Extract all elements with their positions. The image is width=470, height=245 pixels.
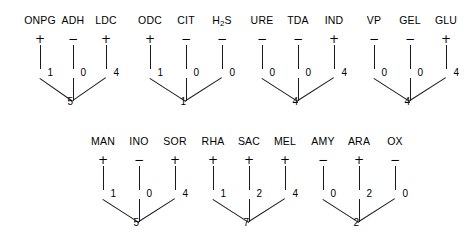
test-stem-line	[186, 45, 187, 69]
negative-sign: −	[245, 34, 279, 44]
negative-sign: −	[357, 34, 391, 44]
test-label: MAN	[86, 135, 120, 147]
test-stem-line	[40, 45, 41, 69]
center-connector-line	[139, 199, 140, 222]
group-sum-value: 4	[268, 96, 298, 107]
test-score-value: 0	[205, 67, 235, 78]
group-sum-value: 2	[329, 217, 359, 228]
connector-line	[72, 77, 106, 101]
test-label: URE	[245, 14, 279, 26]
test-label: GLU	[429, 14, 463, 26]
test-label: RHA	[196, 135, 230, 147]
test-score-value: 1	[196, 188, 226, 199]
test-label: IND	[317, 14, 351, 26]
connector-line	[297, 77, 334, 101]
test-stem-line	[285, 166, 286, 190]
test-score-value: 0	[393, 67, 423, 78]
test-score-value: 0	[378, 188, 408, 199]
test-score-value: 2	[342, 188, 372, 199]
group-sum-value: 7	[219, 217, 249, 228]
test-label: H2S	[205, 14, 239, 28]
diagram-canvas: ONPG+1ADH−0LDC+45ODC+1CIT−0H2S−01URE−0TD…	[0, 0, 470, 245]
negative-sign: −	[393, 34, 427, 44]
test-label: AMY	[306, 135, 340, 147]
test-score-value: 0	[169, 67, 199, 78]
test-stem-line	[334, 45, 335, 69]
test-score-value: 0	[357, 67, 387, 78]
connector-line	[409, 77, 446, 101]
positive-sign: +	[89, 34, 123, 44]
test-score-value: 1	[23, 67, 53, 78]
group-sum-value: 5	[43, 96, 73, 107]
test-score-value: 0	[56, 67, 86, 78]
test-score-value: 1	[86, 188, 116, 199]
negative-sign: −	[378, 155, 412, 165]
positive-sign: +	[133, 34, 167, 44]
test-label: ARA	[342, 135, 376, 147]
positive-sign: +	[86, 155, 120, 165]
test-score-value: 0	[306, 188, 336, 199]
test-score-value: 0	[122, 188, 152, 199]
test-stem-line	[73, 45, 74, 69]
group-sum-value: 1	[156, 96, 186, 107]
positive-sign: +	[196, 155, 230, 165]
center-connector-line	[249, 199, 250, 222]
negative-sign: −	[56, 34, 90, 44]
test-stem-line	[175, 166, 176, 190]
test-score-value: 4	[158, 188, 188, 199]
test-label: GEL	[393, 14, 427, 26]
test-stem-line	[446, 45, 447, 69]
test-stem-line	[395, 166, 396, 190]
negative-sign: −	[306, 155, 340, 165]
positive-sign: +	[158, 155, 192, 165]
test-stem-line	[150, 45, 151, 69]
connector-line	[248, 198, 285, 222]
positive-sign: +	[429, 34, 463, 44]
test-label: SAC	[232, 135, 266, 147]
negative-sign: −	[169, 34, 203, 44]
test-stem-line	[213, 166, 214, 190]
test-stem-line	[106, 45, 107, 69]
test-stem-line	[298, 45, 299, 69]
center-connector-line	[359, 199, 360, 222]
test-label: TDA	[281, 14, 315, 26]
test-stem-line	[359, 166, 360, 190]
connector-line	[358, 198, 395, 222]
test-score-value: 2	[232, 188, 262, 199]
positive-sign: +	[232, 155, 266, 165]
test-stem-line	[374, 45, 375, 69]
test-label: OX	[378, 135, 412, 147]
test-label: ADH	[56, 14, 90, 26]
test-label: INO	[122, 135, 156, 147]
test-score-value: 0	[245, 67, 275, 78]
test-label: SOR	[158, 135, 192, 147]
test-label: MEL	[268, 135, 302, 147]
test-stem-line	[103, 166, 104, 190]
negative-sign: −	[205, 34, 239, 44]
connector-line	[185, 77, 222, 101]
group-sum-value: 4	[380, 96, 410, 107]
test-stem-line	[249, 166, 250, 190]
center-connector-line	[298, 78, 299, 101]
test-label: ODC	[133, 14, 167, 26]
positive-sign: +	[268, 155, 302, 165]
test-stem-line	[222, 45, 223, 69]
test-stem-line	[139, 166, 140, 190]
test-score-value: 1	[133, 67, 163, 78]
center-connector-line	[73, 78, 74, 101]
test-score-value: 4	[89, 67, 119, 78]
test-label: LDC	[89, 14, 123, 26]
positive-sign: +	[342, 155, 376, 165]
test-stem-line	[410, 45, 411, 69]
center-connector-line	[186, 78, 187, 101]
group-sum-value: 5	[109, 217, 139, 228]
center-connector-line	[410, 78, 411, 101]
test-label: ONPG	[23, 14, 57, 26]
test-stem-line	[323, 166, 324, 190]
connector-line	[138, 198, 175, 222]
negative-sign: −	[122, 155, 156, 165]
positive-sign: +	[317, 34, 351, 44]
test-score-value: 4	[429, 67, 459, 78]
test-label: CIT	[169, 14, 203, 26]
test-stem-line	[262, 45, 263, 69]
